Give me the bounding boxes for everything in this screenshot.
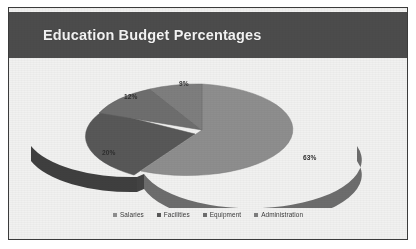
page-title: Education Budget Percentages bbox=[9, 27, 262, 43]
legend-label: Equipment bbox=[210, 211, 241, 218]
legend-swatch-icon bbox=[254, 213, 258, 217]
legend-swatch-icon bbox=[203, 213, 207, 217]
pie-data-label-administration: 9% bbox=[179, 80, 189, 87]
legend-item-salaries[interactable]: Salaries bbox=[113, 211, 144, 218]
pie-top-face bbox=[85, 84, 292, 176]
legend-swatch-icon bbox=[113, 213, 117, 217]
pie-data-label-salaries: 63% bbox=[303, 154, 317, 161]
pie-depth-facilities-flank bbox=[137, 174, 144, 192]
legend-label: Facilities bbox=[164, 211, 190, 218]
chart-frame: Education Budget Percentages bbox=[8, 7, 408, 240]
pie-chart-plot-area: 63% 20% 12% 9% bbox=[9, 58, 407, 208]
legend-label: Salaries bbox=[120, 211, 144, 218]
legend-label: Administration bbox=[261, 211, 303, 218]
chart-title-bar: Education Budget Percentages bbox=[9, 12, 407, 58]
legend-item-administration[interactable]: Administration bbox=[254, 211, 303, 218]
pie-data-label-facilities: 20% bbox=[102, 149, 116, 156]
pie-data-label-equipment: 12% bbox=[124, 93, 138, 100]
legend-item-equipment[interactable]: Equipment bbox=[203, 211, 241, 218]
legend-item-facilities[interactable]: Facilities bbox=[157, 211, 190, 218]
legend-swatch-icon bbox=[157, 213, 161, 217]
chart-legend: Salaries Facilities Equipment Administra… bbox=[9, 211, 407, 218]
pie-chart-graphic bbox=[9, 58, 408, 208]
